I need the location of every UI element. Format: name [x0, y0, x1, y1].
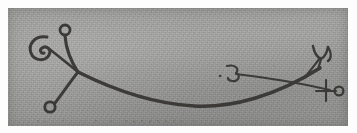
lower-left-circle	[45, 102, 55, 112]
ink-strokes-group	[30, 25, 343, 112]
line-drawing-svg	[8, 8, 348, 126]
bottom-edge-speckle-row	[37, 120, 256, 122]
hook-glyph	[227, 66, 239, 82]
scan-plate	[8, 8, 348, 126]
branch-to-lower-left-circle	[55, 72, 78, 103]
top-circle	[60, 25, 70, 35]
long-sagging-curve	[78, 68, 320, 106]
field-speckles	[107, 23, 300, 66]
ink-drawing-layer	[8, 8, 348, 126]
branch-to-left-curl	[48, 48, 78, 72]
trident-fork-tail	[328, 47, 331, 61]
figure-root	[0, 0, 357, 133]
hook-side-dot	[219, 75, 221, 77]
